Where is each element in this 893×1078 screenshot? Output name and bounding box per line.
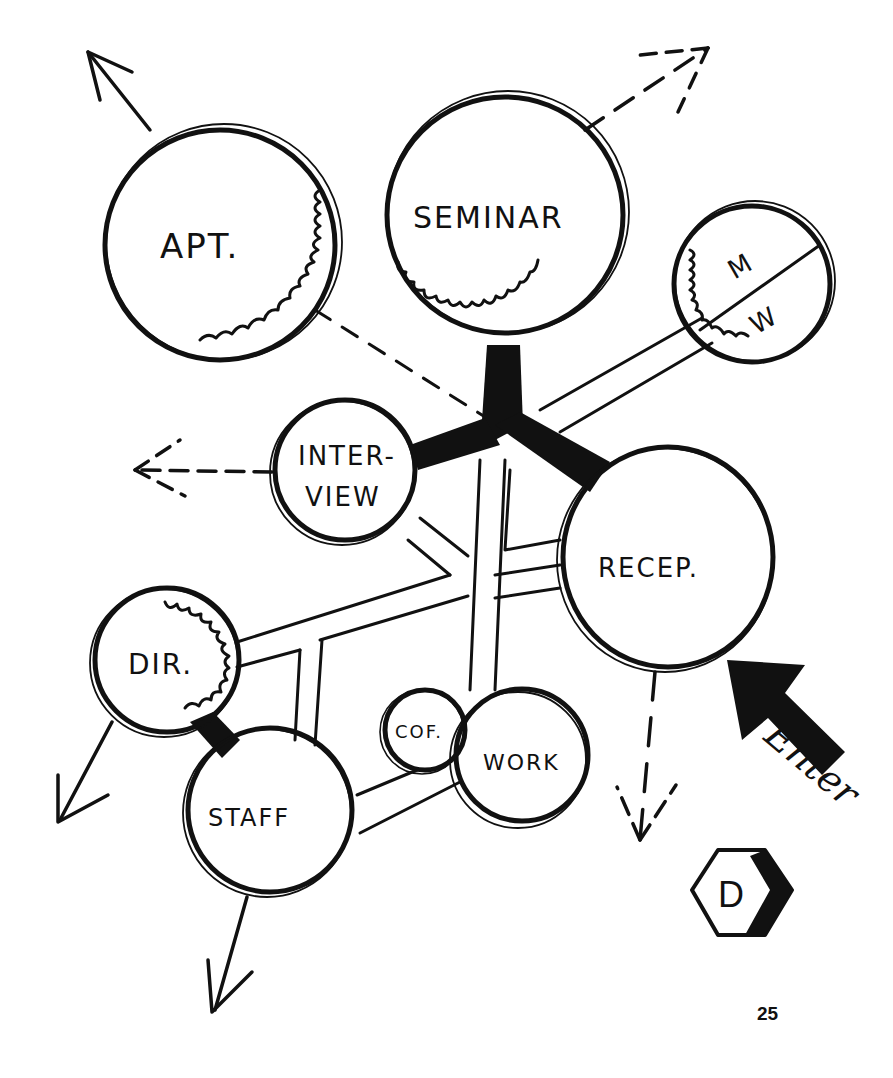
corridor-dir-recep-e	[495, 588, 560, 598]
exit-arrow-staff	[208, 897, 252, 1012]
strong-link-interview	[410, 418, 500, 470]
bubble-diagram: APT. SEMINAR M W INTER- VIEW RECEP. DIR.	[0, 0, 893, 1078]
label-work: WORK	[483, 750, 560, 775]
label-interview-2: VIEW	[305, 482, 381, 512]
corridor-staff-up-b	[315, 640, 322, 745]
label-dir: DIR.	[128, 648, 193, 681]
corridor-staff-cof	[357, 770, 417, 795]
bubble-director[interactable]: DIR.	[90, 588, 239, 737]
page-number: 25	[757, 1003, 779, 1024]
corridor-dir-recep-b	[237, 650, 300, 667]
corridor-spine-a	[470, 460, 480, 690]
corridor-interview-a	[420, 518, 468, 556]
corridor-dir-recep-c	[320, 596, 468, 640]
badge-letter: D	[718, 874, 744, 915]
corridor-staff-work	[360, 782, 460, 833]
corridor-staff-up-a	[295, 650, 300, 740]
exit-arrow-apt	[88, 52, 150, 130]
exit-arrow-dir	[58, 722, 112, 822]
bubble-restrooms[interactable]: M W	[674, 201, 835, 362]
label-men: M	[723, 247, 759, 285]
bubble-coffee[interactable]: COF.	[380, 690, 465, 774]
privacy-edge	[398, 260, 538, 307]
label-interview-1: INTER-	[298, 441, 396, 471]
label-apt: APT.	[160, 226, 239, 266]
label-staff: STAFF	[208, 804, 290, 832]
exit-arrow-seminar	[585, 48, 708, 130]
bubble-staff[interactable]: STAFF	[183, 728, 352, 897]
bubble-seminar[interactable]: SEMINAR	[387, 91, 629, 333]
exit-arrow-recep	[617, 672, 676, 840]
label-women: W	[745, 300, 784, 340]
corridor-interview-b	[408, 540, 450, 575]
bubble-apt[interactable]: APT.	[105, 124, 342, 360]
label-recep: RECEP.	[598, 553, 699, 583]
badge-hexagon: D	[692, 850, 792, 935]
bubble-interview[interactable]: INTER- VIEW	[270, 400, 415, 545]
corridor-recep-branch	[505, 470, 560, 550]
corridor-dir-recep-d	[495, 565, 560, 575]
label-seminar: SEMINAR	[413, 200, 564, 235]
bubble-reception[interactable]: RECEP.	[557, 447, 773, 672]
bubble-work[interactable]: WORK	[450, 689, 588, 828]
label-cof: COF.	[395, 721, 443, 742]
entry-arrow: Enter	[727, 660, 870, 817]
exit-arrow-interview	[135, 440, 272, 496]
